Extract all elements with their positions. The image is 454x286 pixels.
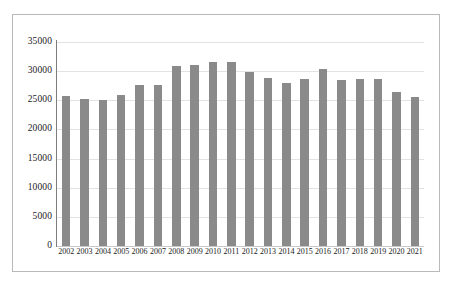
x-tick-label: 2009 [187,248,203,256]
y-tick-label: 20000 [28,125,52,135]
bar [374,79,383,246]
bar [154,85,163,246]
x-tick-label: 2011 [223,248,239,256]
x-tick-label: 2014 [278,248,294,256]
x-tick-label: 2004 [95,248,111,256]
bar [264,78,273,246]
bar [282,83,291,246]
x-axis-tick-labels: 2002200320042005200620072008200920102011… [57,248,424,262]
x-tick-label: 2021 [407,248,423,256]
y-tick-label: 5000 [33,212,52,222]
bar-series [57,42,424,246]
bar [80,99,89,246]
bar [62,96,71,246]
x-tick-label: 2016 [315,248,331,256]
bar [411,97,420,246]
y-tick-label: 25000 [28,96,52,106]
bar [337,80,346,246]
x-tick-label: 2017 [333,248,349,256]
x-tick-label: 2003 [77,248,93,256]
x-tick-label: 2008 [168,248,184,256]
x-tick-label: 2013 [260,248,276,256]
bar [209,62,218,246]
gridline [57,246,424,247]
x-tick-label: 2015 [297,248,313,256]
y-tick-label: 10000 [28,183,52,193]
x-tick-label: 2006 [132,248,148,256]
bar [227,62,236,246]
bar [172,66,181,246]
y-tick-label: 35000 [28,37,52,47]
x-tick-label: 2019 [370,248,386,256]
x-tick-label: 2007 [150,248,166,256]
bar [135,85,144,246]
x-tick-label: 2012 [242,248,258,256]
y-tick-label: 15000 [28,154,52,164]
y-tick-label: 30000 [28,66,52,76]
bar [190,65,199,246]
x-tick-label: 2002 [58,248,74,256]
y-tick-label: 0 [47,241,52,251]
x-tick-label: 2005 [113,248,129,256]
bar [245,72,254,246]
bar [319,69,328,246]
bar [300,79,309,246]
bar [117,95,126,246]
bar [356,79,365,246]
figure: 05000100001500020000250003000035000 2002… [0,0,454,286]
bar [392,92,401,246]
x-tick-label: 2010 [205,248,221,256]
x-tick-label: 2020 [388,248,404,256]
bar [99,100,108,246]
y-axis-tick-labels: 05000100001500020000250003000035000 [0,42,52,246]
x-tick-label: 2018 [352,248,368,256]
